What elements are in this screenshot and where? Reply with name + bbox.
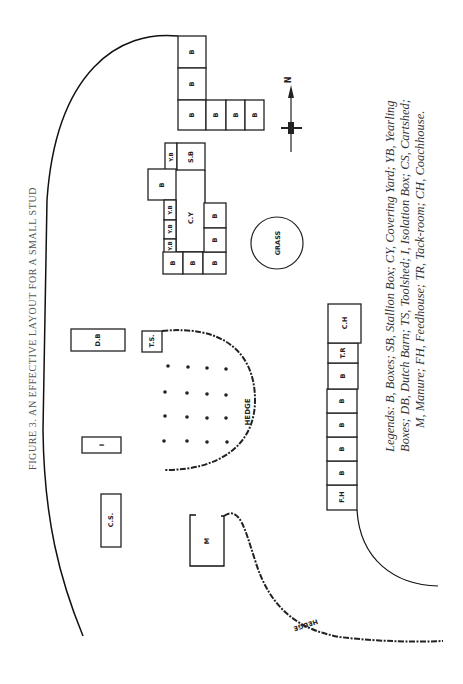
manure-pit: M bbox=[190, 515, 224, 566]
hedge-label: HEDGE bbox=[244, 398, 252, 425]
isolation-box-label: I bbox=[98, 444, 106, 446]
box-label: B bbox=[338, 422, 346, 427]
covering-yard-label: C.Y bbox=[187, 212, 195, 224]
stable-row: F.H B B B B B T.R C.H bbox=[327, 304, 361, 510]
yearling-box-label: Y.B bbox=[168, 152, 174, 162]
toolshed: T.S. bbox=[142, 331, 162, 352]
box-label: B bbox=[251, 112, 259, 117]
box-label: B bbox=[211, 213, 219, 218]
box-label: B bbox=[189, 260, 197, 265]
box-label: B bbox=[188, 112, 196, 117]
yearling-box-label: Y.B bbox=[167, 205, 173, 215]
grass-label: GRASS bbox=[274, 230, 282, 255]
box-label: B bbox=[339, 373, 347, 378]
north-arrow-icon bbox=[288, 85, 294, 98]
isolation-box: I bbox=[82, 437, 121, 453]
feedhouse-label: F.H bbox=[338, 491, 346, 502]
toolshed-label: T.S. bbox=[148, 334, 156, 347]
legend-line-3: M, Manure; FH, Feedhouse; TR, Tack-room;… bbox=[413, 111, 427, 429]
upper-boxes-block: B B B B B B bbox=[178, 36, 264, 130]
covering-yard bbox=[176, 170, 205, 252]
cartshed-label: C.S. bbox=[107, 513, 115, 527]
figure-title: FIGURE 3. AN EFFECTIVE LAYOUT FOR A SMAL… bbox=[27, 187, 38, 470]
layout-diagram: FIGURE 3. AN EFFECTIVE LAYOUT FOR A SMAL… bbox=[0, 0, 463, 684]
box-label: B bbox=[338, 470, 346, 475]
box-label: B bbox=[212, 112, 220, 117]
dutch-barn: D.B bbox=[71, 329, 125, 351]
covering-yard-complex: Y.B S.B B C.Y Y.B Y.B Y.B B B B B B bbox=[148, 143, 226, 274]
box-label: B bbox=[169, 260, 177, 265]
legend-line-1: Legends: B, Boxes; SB, Stallion Box; CY,… bbox=[383, 100, 397, 453]
lower-hedge bbox=[224, 513, 443, 641]
tack-room-label: T.R bbox=[339, 348, 347, 359]
box-label: B bbox=[188, 49, 196, 54]
box-label: B bbox=[211, 260, 219, 265]
compass: N bbox=[281, 77, 302, 152]
cartshed: C.S. bbox=[101, 494, 121, 547]
compass-north-label: N bbox=[284, 77, 293, 84]
dutch-barn-label: D.B bbox=[94, 334, 102, 347]
box-label: B bbox=[232, 112, 240, 117]
yearling-box-label: Y.B bbox=[167, 224, 173, 234]
box-label: B bbox=[188, 81, 196, 86]
grass-area: GRASS bbox=[251, 217, 303, 269]
legend-line-2: Boxes; DB, Dutch Barn; TS, Toolshed; I, … bbox=[398, 99, 412, 452]
legend: Legends: B, Boxes; SB, Stallion Box; CY,… bbox=[383, 99, 427, 453]
orchard-hedge bbox=[162, 330, 255, 470]
yearling-box-label: Y.B bbox=[167, 241, 173, 251]
manure-label: M bbox=[203, 538, 211, 544]
box-label: B bbox=[338, 446, 346, 451]
stud-layout-figure: FIGURE 3. AN EFFECTIVE LAYOUT FOR A SMAL… bbox=[0, 0, 463, 684]
box-label: B bbox=[211, 237, 219, 242]
box-label: B bbox=[338, 398, 346, 403]
stallion-box-label: S.B bbox=[187, 151, 195, 163]
drive-curve bbox=[357, 510, 438, 586]
box-label: B bbox=[158, 182, 166, 187]
coachhouse-label: C.H bbox=[341, 317, 349, 330]
orchard-trees bbox=[162, 364, 229, 444]
